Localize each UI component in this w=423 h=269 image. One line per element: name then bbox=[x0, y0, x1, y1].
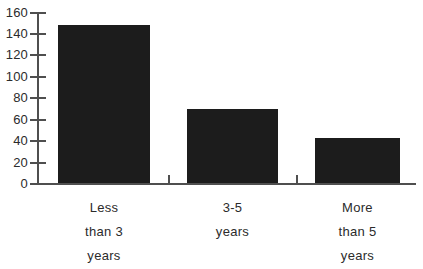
y-axis-label-140: 140 bbox=[0, 27, 28, 40]
y-axis-label-120: 120 bbox=[0, 48, 28, 61]
y-axis-label-140-wrap: 140 bbox=[0, 27, 28, 40]
y-axis-tick-100 bbox=[30, 76, 46, 78]
y-axis-label-100-wrap: 100 bbox=[0, 70, 28, 83]
x-axis-tick-1 bbox=[168, 175, 170, 184]
y-axis-label-120-wrap: 120 bbox=[0, 48, 28, 61]
y-axis-tick-160 bbox=[30, 12, 46, 14]
y-axis-label-20-wrap: 20 bbox=[0, 156, 28, 169]
y-axis-label-60: 60 bbox=[0, 113, 28, 126]
bar-more-than-5-years bbox=[315, 138, 400, 183]
y-axis-label-20: 20 bbox=[0, 156, 28, 169]
y-axis-label-80: 80 bbox=[0, 91, 28, 104]
y-axis-tick-60 bbox=[30, 119, 46, 121]
category-label-less-than-3-years: Less than 3 years bbox=[58, 196, 150, 268]
y-axis-label-60-wrap: 60 bbox=[0, 113, 28, 126]
y-axis-tick-120 bbox=[30, 54, 46, 56]
y-axis-label-100: 100 bbox=[0, 70, 28, 83]
y-axis-label-0-wrap: 0 bbox=[0, 177, 28, 190]
y-axis-tick-40 bbox=[30, 140, 46, 142]
y-axis-label-80-wrap: 80 bbox=[0, 91, 28, 104]
x-axis-tick-2 bbox=[296, 175, 298, 184]
category-label-3-5-years: 3-5 years bbox=[187, 196, 278, 244]
y-axis-tick-20 bbox=[30, 162, 46, 164]
bar-chart: 160 140 120 100 80 60 40 20 0 Less than … bbox=[0, 0, 423, 269]
y-axis-label-0: 0 bbox=[0, 177, 28, 190]
bar-less-than-3-years bbox=[58, 25, 150, 183]
y-axis-label-40-wrap: 40 bbox=[0, 134, 28, 147]
y-axis-label-40: 40 bbox=[0, 134, 28, 147]
y-axis-tick-140 bbox=[30, 33, 46, 35]
y-axis-tick-80 bbox=[30, 97, 46, 99]
y-axis-label-160: 160 bbox=[0, 6, 28, 19]
x-axis-line bbox=[30, 183, 416, 185]
y-axis-label-160-wrap: 160 bbox=[0, 6, 28, 19]
bar-3-5-years bbox=[187, 109, 278, 183]
category-label-more-than-5-years: More than 5 years bbox=[315, 196, 400, 268]
